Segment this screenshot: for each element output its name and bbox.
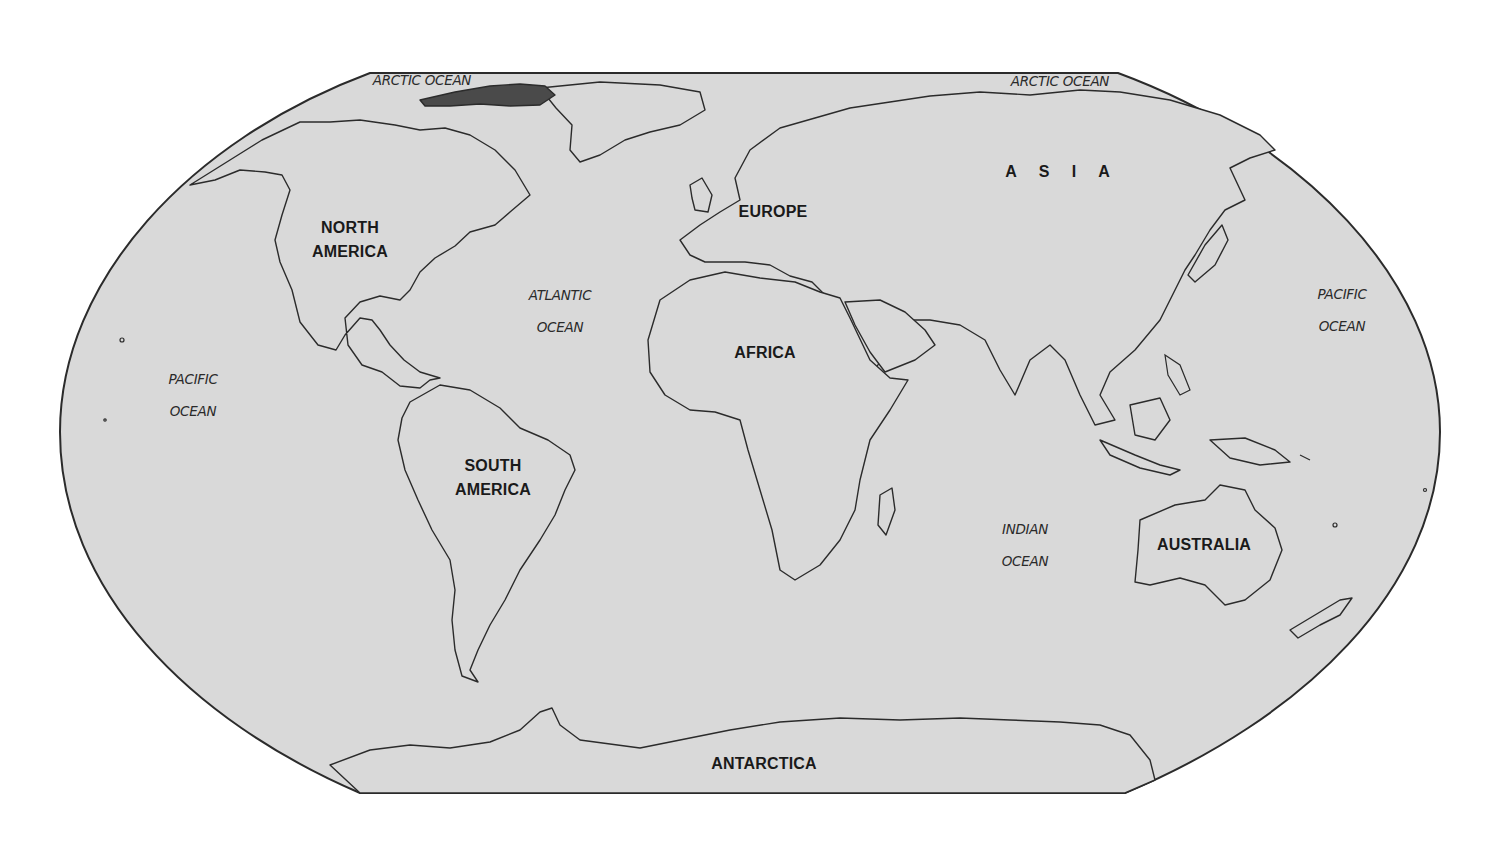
label-line: INDIAN [1002, 513, 1048, 545]
label-line: AMERICA [312, 240, 388, 264]
label-arctic-ocean-east: ARCTIC OCEAN [1011, 65, 1109, 97]
label-atlantic-ocean: ATLANTIC OCEAN [529, 279, 592, 343]
label-line: OCEAN [529, 311, 592, 343]
label-line: OCEAN [1002, 545, 1048, 577]
label-europe: EUROPE [739, 200, 808, 224]
label-australia: AUSTRALIA [1157, 533, 1251, 557]
label-africa: AFRICA [734, 341, 796, 365]
label-north-america: NORTH AMERICA [312, 216, 388, 264]
world-map [0, 0, 1490, 845]
label-arctic-ocean-west: ARCTIC OCEAN [373, 64, 471, 96]
label-south-america: SOUTH AMERICA [455, 454, 531, 502]
label-line: NORTH [312, 216, 388, 240]
label-line: OCEAN [168, 395, 217, 427]
label-line: PACIFIC [1317, 278, 1366, 310]
label-line: OCEAN [1317, 310, 1366, 342]
label-line: PACIFIC [168, 363, 217, 395]
label-line: AMERICA [455, 478, 531, 502]
label-indian-ocean: INDIAN OCEAN [1002, 513, 1048, 577]
label-line: ATLANTIC [529, 279, 592, 311]
label-line: SOUTH [455, 454, 531, 478]
label-asia: A S I A [1005, 160, 1118, 184]
label-pacific-ocean-east: PACIFIC OCEAN [1317, 278, 1366, 342]
label-antarctica: ANTARCTICA [711, 752, 817, 776]
label-pacific-ocean-west: PACIFIC OCEAN [168, 363, 217, 427]
